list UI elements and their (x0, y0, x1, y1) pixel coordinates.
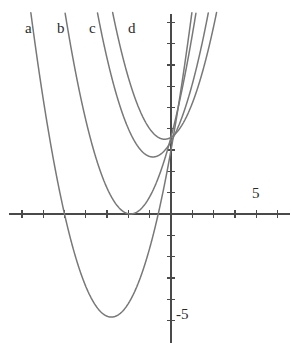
parabola-curve-a (31, 13, 192, 317)
curve-label-b: b (57, 21, 65, 36)
parabola-family-figure: a b c d 5 -5 (0, 0, 291, 343)
curve-label-d: d (128, 21, 136, 36)
plot-canvas (0, 0, 291, 343)
axes-group (9, 14, 290, 343)
curve-label-c: c (89, 21, 96, 36)
parabola-curve-b (65, 13, 196, 214)
y-tick-label-minus-5: -5 (176, 307, 189, 322)
x-tick-label-5: 5 (252, 186, 260, 201)
curve-label-a: a (25, 21, 32, 36)
curves-group (31, 12, 217, 317)
